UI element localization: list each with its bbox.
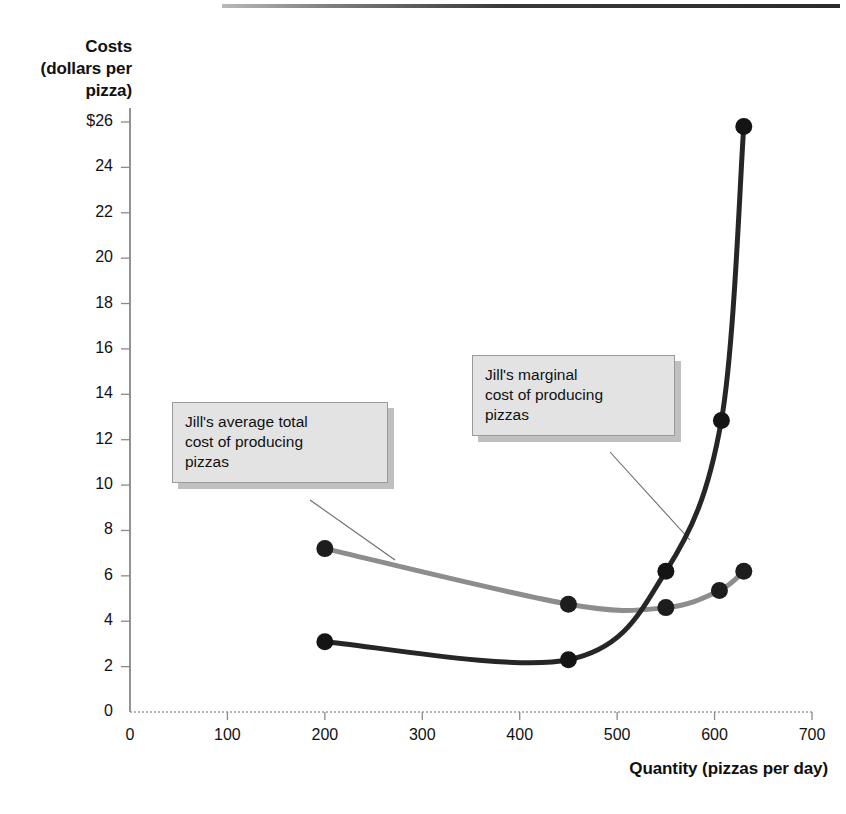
y-tick-label: 24 [51,157,113,175]
callout-average-total-cost: Jill's average total cost of producing p… [172,402,388,483]
y-tick-label: 22 [51,203,113,221]
y-tick-label: $26 [51,112,113,130]
y-tick-label: 4 [51,611,113,629]
data-point [560,596,577,613]
y-tick-label: 14 [51,384,113,402]
data-point [316,540,333,557]
x-tick-label: 600 [687,726,743,744]
x-tick-label: 300 [394,726,450,744]
plot-area [0,0,846,814]
x-tick-label: 400 [492,726,548,744]
x-tick-label: 500 [589,726,645,744]
y-tick-label: 8 [51,520,113,538]
data-point [657,599,674,616]
data-point [657,563,674,580]
x-tick-label: 100 [199,726,255,744]
callout-marginal-cost: Jill's marginal cost of producing pizzas [472,355,675,436]
x-tick-marks [227,712,812,720]
series-atc [316,540,752,616]
y-tick-label: 12 [51,430,113,448]
y-tick-label: 6 [51,566,113,584]
series-line [325,549,744,611]
y-tick-label: 16 [51,339,113,357]
y-tick-label: 18 [51,294,113,312]
chart-figure: Costs (dollars per pizza) Quantity (pizz… [0,0,846,814]
data-point [711,582,728,599]
y-tick-label: 2 [51,657,113,675]
data-point [735,118,752,135]
x-tick-label: 0 [102,726,158,744]
data-point [735,563,752,580]
y-tick-label: 20 [51,248,113,266]
y-tick-label: 0 [51,702,113,720]
data-point [316,633,333,650]
x-tick-label: 700 [784,726,840,744]
data-point [560,651,577,668]
y-tick-marks [121,122,130,667]
data-point [713,412,730,429]
y-tick-label: 10 [51,475,113,493]
x-tick-label: 200 [297,726,353,744]
